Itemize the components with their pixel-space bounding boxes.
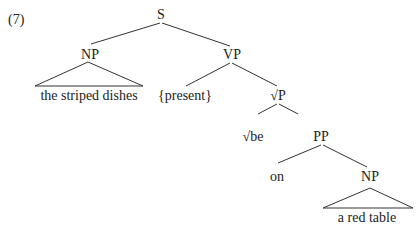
tree-branches [0,0,420,228]
node-np-subject: NP [81,48,99,62]
node-prep: on [270,170,284,184]
node-root-p: √P [270,89,285,103]
node-vp: VP [223,48,241,62]
node-pp: PP [313,130,329,144]
node-root-be: √be [243,130,264,144]
node-s: S [157,8,165,22]
node-tense: {present} [158,89,212,103]
subject-text: the striped dishes [40,89,137,103]
node-np-object: NP [361,170,379,184]
object-text: a red table [338,211,396,225]
